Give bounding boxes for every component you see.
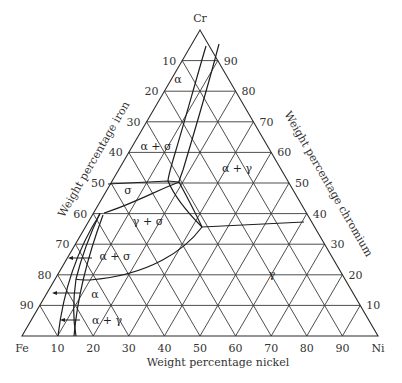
tick-bottom: 30: [122, 342, 136, 355]
tick-left: 60: [73, 208, 87, 221]
tick-bottom: 70: [264, 342, 278, 355]
grid-lines: [40, 61, 360, 336]
arrowhead-2: [52, 291, 57, 295]
grid-line-ni: [342, 305, 360, 336]
tick-right: 10: [366, 299, 380, 312]
tick-bottom: 50: [193, 342, 207, 355]
tick-right: 70: [259, 116, 273, 129]
tick-bottom: 60: [229, 342, 243, 355]
region-alpha-sigma-top: α + σ: [140, 140, 172, 153]
tick-bottom: 90: [335, 342, 349, 355]
region-alpha-top: α: [174, 73, 182, 86]
tick-left: 40: [109, 146, 123, 159]
tick-left: 90: [20, 299, 34, 312]
region-alpha-bottom: α: [91, 288, 99, 301]
axis-title-nickel: Weight percentage nickel: [147, 356, 290, 369]
tick-left: 80: [38, 269, 52, 282]
tick-left: 20: [144, 85, 158, 98]
tick-left: 30: [127, 116, 141, 129]
corner-label-ni: Ni: [371, 342, 385, 355]
tick-right: 60: [277, 146, 291, 159]
tick-left: 50: [91, 177, 105, 190]
grid-line-fe: [40, 305, 58, 336]
tick-right: 50: [295, 177, 309, 190]
region-alpha-gamma-top: α + γ: [222, 162, 253, 175]
tick-bottom: 80: [300, 342, 314, 355]
ternary-phase-diagram: Cr Fe Ni 102030405060708090 908070605040…: [0, 0, 402, 383]
tick-right: 20: [348, 269, 362, 282]
tick-right: 80: [242, 85, 256, 98]
right-tick-labels: 908070605040302010: [224, 55, 380, 313]
region-sigma: σ: [124, 184, 132, 197]
grid-line-ni: [200, 183, 289, 336]
corner-label-cr: Cr: [193, 12, 207, 25]
grid-line-fe: [182, 61, 342, 336]
left-tick-labels: 102030405060708090: [20, 55, 176, 313]
region-gamma: γ: [269, 268, 276, 281]
grid-line-ni: [271, 244, 324, 336]
region-gamma-sigma: γ + σ: [133, 215, 164, 228]
corner-label-fe: Fe: [15, 342, 29, 355]
region-alpha-gamma-bottom: α + γ: [92, 314, 123, 327]
tick-left: 70: [55, 238, 69, 251]
tick-bottom: 40: [157, 342, 171, 355]
region-alpha-sigma-bottom: α + σ: [99, 250, 131, 263]
grid-line-ni: [58, 61, 218, 336]
tick-right: 30: [331, 238, 345, 251]
grid-line-ni: [129, 122, 254, 336]
tick-bottom: 20: [86, 342, 100, 355]
left-curve-3: [74, 279, 76, 336]
alpha-gamma-lower-boundary: [202, 222, 304, 227]
tick-right: 40: [313, 208, 327, 221]
tick-bottom: 10: [51, 342, 65, 355]
bottom-tick-labels: 102030405060708090: [51, 342, 350, 355]
tick-left: 10: [162, 55, 176, 68]
grid-line-fe: [147, 122, 272, 336]
tick-right: 90: [224, 55, 238, 68]
